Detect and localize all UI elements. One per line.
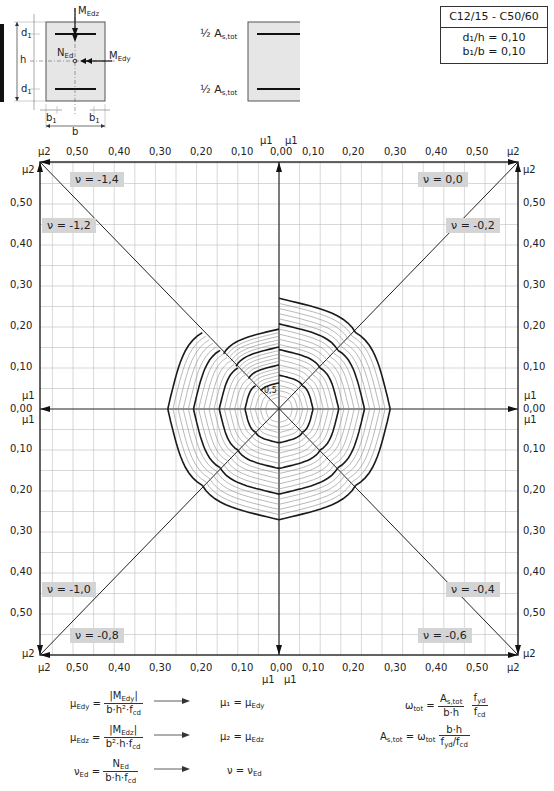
formula-mu1: μ₁ = μEdy [220, 697, 265, 710]
b1-left-label: b1 [46, 112, 57, 125]
formula-as-tot: As,tot = ωtot b·hfyd/fcd [380, 724, 470, 749]
concrete-class: C12/15 - C50/60 [441, 7, 547, 28]
nu-label: ν = -0,6 [418, 628, 472, 643]
top-tick-label: 0,50 [66, 146, 88, 157]
right-tick-label: 0,30 [523, 525, 545, 536]
as-tot-bottom-label: ½ As,tot [200, 83, 237, 97]
nu-label: ν = -0,8 [70, 628, 124, 643]
left-tick-label: μ2 [22, 648, 35, 659]
mu1-label: μ1 [22, 414, 35, 425]
top-tick-label: 0,20 [342, 146, 364, 157]
center-omega-label: 0,5 [264, 386, 277, 395]
left-tick-label: 0,10 [10, 361, 32, 372]
bottom-tick-label: μ2 [507, 662, 520, 673]
top-tick-label: μ2 [38, 146, 51, 157]
top-tick-label: 0,00 [270, 146, 292, 157]
top-tick-label: 0,20 [190, 146, 212, 157]
left-tick-label: 0,50 [10, 607, 32, 618]
left-tick-label: 0,40 [10, 566, 32, 577]
bottom-tick-label: 0,40 [425, 662, 447, 673]
bottom-tick-label: 0,20 [190, 662, 212, 673]
top-tick-label: 0,50 [466, 146, 488, 157]
left-tick-label: 0,30 [10, 279, 32, 290]
b1-b-ratio: b₁/b = 0,10 [441, 45, 547, 59]
formula-omega-tot: ωtot = As,totb·h fydfcd [405, 692, 488, 719]
nu-label: ν = -1,2 [42, 218, 96, 233]
top-tick-label: 0,10 [231, 146, 253, 157]
mu1-label: μ1 [524, 390, 537, 401]
bottom-tick-label: 0,50 [466, 662, 488, 673]
top-tick-label: 0,40 [425, 146, 447, 157]
left-tick-label: 0,00 [10, 403, 32, 414]
top-tick-label: 0,40 [108, 146, 130, 157]
right-tick-label: 0,40 [523, 238, 545, 249]
nu-label: ν = -1,0 [42, 582, 96, 597]
left-tick-label: 0,20 [10, 484, 32, 495]
mu1-label: μ1 [524, 414, 537, 425]
left-tick-label: 0,40 [10, 238, 32, 249]
bottom-tick-label: 0,10 [231, 662, 253, 673]
b1-right-label: b1 [89, 112, 100, 125]
top-tick-label: μ2 [507, 146, 520, 157]
right-tick-label: 0,20 [523, 484, 545, 495]
nu-label: ν = -0,4 [446, 582, 500, 597]
nu-label: ν = -1,4 [70, 172, 124, 187]
mu1-label: μ1 [262, 674, 275, 685]
right-tick-label: 0,10 [523, 443, 545, 454]
bottom-tick-label: 0,20 [342, 662, 364, 673]
material-parameter-box: C12/15 - C50/60 d₁/h = 0,10 b₁/b = 0,10 [440, 6, 548, 64]
as-tot-top-label: ½ As,tot [200, 27, 237, 41]
nu-label: ν = -0,2 [446, 218, 500, 233]
right-tick-label: 0,40 [523, 566, 545, 577]
bottom-tick-label: 0,30 [384, 662, 406, 673]
right-tick-label: 0,50 [523, 197, 545, 208]
bottom-tick-label: 0,50 [66, 662, 88, 673]
right-tick-label: 0,00 [523, 403, 545, 414]
left-tick-label: 0,10 [10, 443, 32, 454]
mu1-label: μ1 [22, 390, 35, 401]
top-tick-label: 0,30 [384, 146, 406, 157]
m-edz-label: MEdz [78, 5, 99, 18]
d1-bottom-label: d1 [21, 83, 32, 96]
formula-mu-edy: μEdy = |MEdy|b·h²·fcd [70, 690, 143, 717]
n-ed-label: NEd [57, 47, 73, 60]
bottom-tick-label: 0,00 [270, 662, 292, 673]
formula-mu-edz: μEdz = |MEdz|b²·h·fcd [70, 724, 143, 751]
right-tick-label: μ2 [523, 164, 536, 175]
right-tick-label: 0,10 [523, 361, 545, 372]
bottom-tick-label: 0,30 [149, 662, 171, 673]
section-sketch [0, 0, 300, 135]
bottom-tick-label: 0,40 [108, 662, 130, 673]
formula-nu-ed: νEd = NEdb·h·fcd [74, 758, 138, 785]
left-tick-label: μ2 [22, 164, 35, 175]
h-label: h [20, 54, 26, 65]
formula-mu2: μ₂ = μEdz [220, 731, 264, 744]
left-tick-label: 0,30 [10, 525, 32, 536]
m-edy-label: MEdy [109, 50, 131, 63]
nu-label: ν = 0,0 [418, 172, 468, 187]
bottom-tick-label: 0,10 [302, 662, 324, 673]
bottom-tick-label: μ2 [38, 662, 51, 673]
top-tick-label: 0,30 [149, 146, 171, 157]
d1-top-label: d1 [21, 27, 32, 40]
right-tick-label: μ2 [523, 648, 536, 659]
left-tick-label: 0,20 [10, 320, 32, 331]
mu1-label: μ1 [285, 135, 298, 146]
mu1-label: μ1 [260, 135, 273, 146]
left-tick-label: 0,50 [10, 197, 32, 208]
right-tick-label: 0,20 [523, 320, 545, 331]
top-tick-label: 0,10 [302, 146, 324, 157]
right-tick-label: 0,30 [523, 279, 545, 290]
d1-h-ratio: d₁/h = 0,10 [441, 31, 547, 45]
formula-nu: ν = νEd [227, 765, 262, 778]
right-tick-label: 0,50 [523, 607, 545, 618]
mu1-label: μ1 [284, 674, 297, 685]
